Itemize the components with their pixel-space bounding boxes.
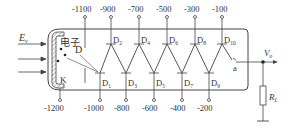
voltage-d1: -1000 — [84, 103, 104, 113]
voltage-d6: -500 — [156, 4, 172, 14]
voltage-d2: -900 — [100, 4, 116, 14]
dynode-label-d6: D6 — [169, 35, 178, 46]
input-label: Ev — [18, 32, 28, 44]
output-label: Vo — [264, 48, 273, 59]
dynode-label-d9: D9 — [211, 78, 220, 89]
voltage-d8: -300 — [184, 4, 200, 14]
top-dynodes — [106, 16, 227, 45]
anode — [233, 58, 236, 60]
electrons — [57, 48, 67, 63]
voltage-d5: -600 — [142, 103, 158, 113]
dynode-label-d5: D5 — [156, 78, 165, 89]
load-label: RL — [268, 92, 278, 103]
dynode-label-d7: D7 — [184, 78, 193, 89]
dynode-label-d1: D1 — [102, 78, 111, 89]
load-resistor — [260, 86, 266, 105]
photomultiplier-diagram: Ev 电子 D K -1100 -1200 D2 D4 D6 D8 D10 -9… — [0, 0, 294, 129]
cathode-voltage: -1200 — [44, 103, 64, 113]
voltage-d9: -200 — [197, 103, 213, 113]
focus-label: D — [75, 44, 82, 55]
voltage-d3: -800 — [114, 103, 130, 113]
electron-paths — [67, 55, 98, 72]
light-arrows — [18, 42, 46, 74]
voltage-d10: -100 — [212, 4, 228, 14]
dynode-label-d2: D2 — [113, 35, 122, 46]
dynode-label-d8: D8 — [197, 35, 206, 46]
dynode-label-d10: D10 — [224, 35, 236, 46]
focus-voltage: -1100 — [72, 4, 92, 14]
anode-label: a — [233, 63, 237, 73]
cathode-label: K — [60, 75, 67, 85]
electron-zigzag — [100, 44, 232, 73]
bottom-dynodes — [95, 73, 214, 102]
voltage-d4: -700 — [128, 4, 144, 14]
dynode-label-d4: D4 — [141, 35, 150, 46]
dynode-label-d3: D3 — [128, 78, 137, 89]
voltage-d7: -400 — [170, 103, 186, 113]
